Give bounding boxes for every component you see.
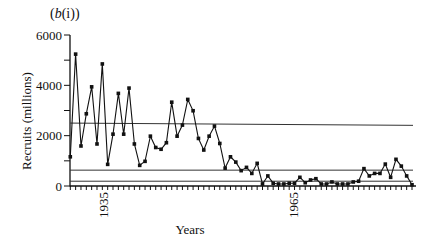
data-point-marker: [266, 174, 270, 178]
data-point-marker: [335, 182, 339, 186]
data-point-marker: [357, 179, 361, 183]
data-point-marker: [405, 174, 409, 178]
data-point-marker: [362, 167, 366, 171]
data-point-marker: [213, 124, 217, 128]
data-point-marker: [277, 182, 281, 186]
data-point-marker: [373, 172, 377, 176]
data-point-marker: [351, 180, 355, 184]
recruits-line: [70, 54, 412, 185]
data-point-marker: [191, 109, 195, 113]
data-point-marker: [138, 164, 142, 168]
y-tick-label: 4000: [36, 78, 62, 93]
data-point-marker: [229, 155, 233, 159]
data-point-marker: [389, 176, 393, 180]
data-point-marker: [122, 132, 126, 136]
data-point-marker: [143, 160, 147, 164]
data-point-marker: [367, 174, 371, 178]
data-point-marker: [250, 172, 254, 176]
y-tick-label: 2000: [36, 128, 62, 143]
data-point-marker: [309, 178, 313, 182]
data-point-marker: [117, 92, 121, 96]
data-point-marker: [79, 144, 83, 148]
data-point-marker: [341, 182, 345, 186]
data-point-marker: [234, 160, 238, 164]
data-point-marker: [175, 134, 179, 138]
data-point-marker: [127, 86, 131, 90]
data-point-marker: [181, 123, 185, 127]
data-point-marker: [271, 181, 275, 185]
data-series: [69, 52, 414, 186]
data-point-marker: [325, 182, 329, 186]
data-point-marker: [197, 137, 201, 141]
data-point-marker: [346, 182, 350, 186]
data-point-marker: [239, 169, 243, 173]
data-point-marker: [207, 134, 211, 138]
data-point-marker: [255, 162, 259, 166]
data-point-marker: [69, 155, 73, 159]
data-point-marker: [186, 98, 190, 102]
data-point-marker: [133, 142, 137, 146]
data-point-marker: [261, 182, 265, 186]
data-point-marker: [410, 183, 414, 187]
data-point-marker: [314, 177, 318, 181]
data-point-marker: [282, 182, 286, 186]
data-point-marker: [394, 158, 398, 162]
data-point-marker: [90, 85, 94, 89]
line-chart: 020004000600019351965: [0, 0, 434, 242]
data-point-marker: [165, 141, 169, 145]
data-point-marker: [101, 62, 105, 66]
data-point-marker: [170, 100, 174, 104]
data-point-marker: [95, 142, 99, 146]
data-point-marker: [111, 132, 115, 136]
data-point-marker: [74, 52, 78, 56]
data-point-marker: [149, 134, 153, 138]
x-tick-label: 1965: [286, 192, 301, 218]
data-point-marker: [287, 181, 291, 185]
data-point-marker: [223, 166, 227, 170]
axes: [64, 35, 416, 190]
data-point-marker: [154, 146, 158, 150]
data-point-marker: [330, 180, 334, 184]
y-tick-label: 6000: [36, 28, 62, 43]
data-point-marker: [218, 142, 222, 146]
data-point-marker: [293, 181, 297, 185]
data-point-marker: [378, 172, 382, 176]
reference-lines: [70, 123, 413, 181]
data-point-marker: [106, 163, 110, 167]
data-point-marker: [85, 112, 89, 116]
data-point-marker: [319, 182, 323, 186]
upper-reference-line: [70, 123, 413, 125]
data-point-marker: [303, 181, 307, 185]
data-point-marker: [384, 162, 388, 166]
data-point-marker: [245, 166, 249, 170]
data-point-marker: [202, 148, 206, 152]
data-point-marker: [400, 164, 404, 168]
data-point-marker: [159, 147, 163, 151]
y-tick-label: 0: [56, 179, 63, 194]
x-tick-label: 1935: [96, 192, 111, 218]
data-point-marker: [298, 176, 302, 180]
